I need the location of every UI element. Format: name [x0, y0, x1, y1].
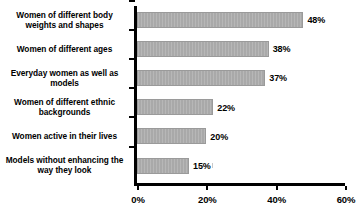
bar-value-label: 20% [210, 132, 228, 142]
bar-value-label: 22% [217, 103, 235, 113]
bar [137, 99, 213, 115]
bar-value-label: 15% [193, 161, 211, 171]
y-axis-tick [129, 87, 135, 89]
x-axis-tick-label: 0% [118, 194, 158, 205]
y-axis-tick [129, 116, 135, 118]
y-axis-tick [129, 58, 135, 60]
x-axis-line [134, 183, 345, 186]
category-label: Women of different body weights and shap… [0, 10, 129, 31]
x-axis-tick [137, 186, 139, 190]
category-axis-labels: Women of different body weights and shap… [0, 6, 133, 184]
jpeg-artifact [212, 163, 213, 168]
bar [137, 128, 206, 144]
bar [137, 41, 269, 57]
bar [137, 12, 303, 28]
bar [137, 70, 265, 86]
y-axis-tick [129, 146, 135, 148]
bar-value-label: 37% [269, 73, 287, 83]
x-axis-tick [276, 186, 278, 190]
bar [137, 158, 189, 174]
bar-value-label: 48% [307, 15, 325, 25]
x-axis-tick-label: 60% [326, 194, 360, 205]
y-axis-tick [129, 29, 135, 31]
category-label: Women active in their lives [0, 131, 129, 141]
x-axis-tick-label: 20% [187, 194, 227, 205]
category-label: Everyday women as well as models [0, 68, 129, 89]
bar-value-label: 38% [273, 44, 291, 54]
x-axis-tick [206, 186, 208, 190]
x-axis-tick-label: 40% [257, 194, 297, 205]
category-label: Models without enhancing the way they lo… [0, 155, 129, 176]
x-axis-tick [345, 186, 347, 190]
category-label: Women of different ages [0, 44, 129, 54]
y-axis-tick [129, 0, 135, 2]
plot-area: 48%38%37%22%20%15% [137, 6, 345, 184]
category-label: Women of different ethnic backgrounds [0, 97, 129, 118]
